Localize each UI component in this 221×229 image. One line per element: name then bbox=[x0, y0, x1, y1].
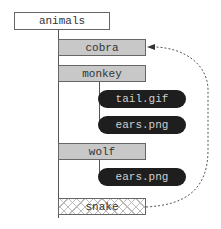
dotted-link-arrow-icon bbox=[0, 0, 221, 229]
